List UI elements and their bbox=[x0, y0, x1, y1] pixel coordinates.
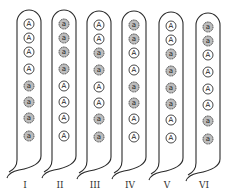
allele-letter: a bbox=[206, 37, 210, 45]
allele-recessive: a bbox=[166, 99, 176, 109]
allele-letter: A bbox=[97, 83, 102, 91]
allele-letter: A bbox=[206, 51, 211, 59]
chromatid-diagram: AAAAaaaaIaaaaAAAAIIAAaaAAaaIIIaaAAaaAAIV… bbox=[0, 0, 227, 195]
allele-letter: a bbox=[132, 99, 136, 107]
allele-letter: A bbox=[62, 114, 67, 122]
allele-letter: a bbox=[132, 21, 136, 29]
allele-letter: a bbox=[97, 115, 101, 123]
allele-dominant: A bbox=[59, 113, 69, 123]
allele-letter: a bbox=[62, 34, 66, 42]
strand-vi: aaAAAAaaVI bbox=[186, 13, 220, 190]
allele-dominant: A bbox=[129, 65, 139, 75]
strand-i: AAAAaaaaI bbox=[7, 10, 41, 190]
allele-recessive: a bbox=[203, 36, 213, 46]
allele-letter: A bbox=[132, 133, 137, 141]
allele-letter: A bbox=[97, 99, 102, 107]
strand-tail bbox=[151, 162, 159, 174]
allele-letter: A bbox=[206, 68, 211, 76]
allele-dominant: A bbox=[59, 131, 69, 141]
allele-letter: a bbox=[206, 23, 210, 31]
strand-iv: aaAAaaAAIV bbox=[112, 11, 146, 190]
allele-recessive: a bbox=[59, 33, 69, 43]
allele-recessive: a bbox=[129, 20, 139, 30]
strand-outline bbox=[7, 10, 41, 178]
allele-recessive: a bbox=[94, 114, 104, 124]
allele-dominant: A bbox=[166, 35, 176, 45]
allele-recessive: a bbox=[94, 48, 104, 58]
allele-dominant: A bbox=[59, 97, 69, 107]
allele-recessive: a bbox=[166, 66, 176, 76]
allele-dominant: A bbox=[129, 114, 139, 124]
allele-letter: a bbox=[62, 20, 66, 28]
allele-dominant: A bbox=[166, 21, 176, 31]
allele-letter: A bbox=[62, 82, 67, 90]
allele-recessive: a bbox=[203, 134, 213, 144]
allele-letter: A bbox=[97, 35, 102, 43]
allele-letter: A bbox=[27, 34, 32, 42]
allele-letter: a bbox=[169, 67, 173, 75]
allele-letter: A bbox=[132, 49, 137, 57]
allele-letter: a bbox=[97, 66, 101, 74]
allele-letter: a bbox=[169, 100, 173, 108]
allele-letter: A bbox=[62, 98, 67, 106]
allele-dominant: A bbox=[203, 67, 213, 77]
allele-dominant: A bbox=[24, 33, 34, 43]
allele-recessive: a bbox=[24, 81, 34, 91]
allele-recessive: a bbox=[129, 82, 139, 92]
allele-letter: a bbox=[169, 84, 173, 92]
allele-letter: A bbox=[206, 85, 211, 93]
strand-tail bbox=[9, 160, 17, 172]
allele-letter: a bbox=[27, 98, 31, 106]
allele-letter: a bbox=[27, 114, 31, 122]
allele-recessive: a bbox=[94, 132, 104, 142]
allele-letter: A bbox=[97, 21, 102, 29]
allele-dominant: A bbox=[94, 82, 104, 92]
allele-letter: a bbox=[27, 82, 31, 90]
allele-recessive: a bbox=[59, 19, 69, 29]
strand-ii: aaaaAAAAII bbox=[42, 10, 76, 190]
allele-dominant: A bbox=[203, 100, 213, 110]
allele-letter: A bbox=[62, 132, 67, 140]
allele-dominant: A bbox=[166, 133, 176, 143]
allele-letter: a bbox=[62, 48, 66, 56]
strand-tail bbox=[188, 163, 196, 175]
allele-letter: A bbox=[132, 66, 137, 74]
allele-letter: a bbox=[206, 117, 210, 125]
allele-recessive: a bbox=[166, 49, 176, 59]
allele-dominant: A bbox=[94, 34, 104, 44]
allele-letter: A bbox=[169, 134, 174, 142]
strand-tail bbox=[79, 161, 87, 173]
allele-letter: A bbox=[169, 22, 174, 30]
allele-recessive: a bbox=[203, 22, 213, 32]
allele-recessive: a bbox=[59, 64, 69, 74]
strand-label: III bbox=[90, 180, 101, 190]
allele-letter: A bbox=[132, 115, 137, 123]
allele-dominant: A bbox=[129, 132, 139, 142]
allele-dominant: A bbox=[24, 19, 34, 29]
allele-dominant: A bbox=[94, 98, 104, 108]
allele-recessive: a bbox=[94, 65, 104, 75]
allele-letter: A bbox=[206, 101, 211, 109]
strand-label: VI bbox=[198, 180, 209, 190]
allele-recessive: a bbox=[166, 83, 176, 93]
allele-letter: A bbox=[169, 36, 174, 44]
allele-letter: a bbox=[62, 65, 66, 73]
strand-outline bbox=[149, 12, 183, 180]
strand-label: I bbox=[23, 180, 27, 190]
allele-dominant: A bbox=[203, 50, 213, 60]
allele-letter: A bbox=[27, 65, 32, 73]
strand-label: II bbox=[56, 180, 64, 190]
strand-outline bbox=[112, 11, 146, 179]
strand-outline bbox=[186, 13, 220, 181]
allele-letter: a bbox=[27, 132, 31, 140]
allele-letter: a bbox=[169, 50, 173, 58]
strand-iii: AAaaAAaaIII bbox=[77, 11, 111, 190]
allele-recessive: a bbox=[24, 113, 34, 123]
allele-dominant: A bbox=[59, 81, 69, 91]
allele-recessive: a bbox=[129, 34, 139, 44]
allele-letter: a bbox=[132, 83, 136, 91]
allele-letter: a bbox=[206, 135, 210, 143]
allele-letter: A bbox=[169, 116, 174, 124]
allele-recessive: a bbox=[24, 97, 34, 107]
allele-letter: a bbox=[97, 133, 101, 141]
